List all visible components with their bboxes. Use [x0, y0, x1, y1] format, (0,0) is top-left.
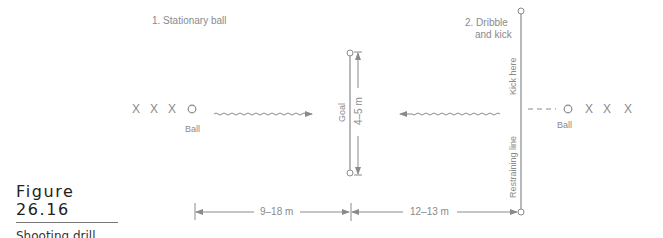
player-x: X [603, 102, 611, 116]
dribble-arrow-left-icon [400, 113, 500, 115]
dist-left-label: 9–18 m [260, 206, 293, 217]
right-ball-icon [564, 105, 572, 113]
player-x: X [132, 102, 140, 116]
goal-label: Goal [337, 103, 347, 122]
goal-width-label: 4–5 m [353, 97, 364, 125]
player-x: X [150, 102, 158, 116]
right-players: X X X [585, 102, 632, 116]
figure-title: Figure 26.16 [16, 183, 118, 219]
dribble-arrow-right-icon [214, 113, 312, 115]
restraining-line-label: Restraining line [508, 136, 518, 198]
drill2-label-line1: 2. Dribble [465, 17, 508, 28]
figure-subtitle: Shooting drill. [16, 229, 118, 238]
kick-here-label: Kick here [508, 57, 518, 95]
figure-caption: Figure 26.16 Shooting drill. [16, 183, 118, 238]
drill1-label: 1. Stationary ball [152, 15, 227, 26]
left-players: X X X [132, 102, 176, 116]
player-x: X [585, 102, 593, 116]
left-ball-label: Ball [185, 124, 200, 134]
restraining-line [518, 8, 524, 215]
dist-right-label: 12–13 m [410, 206, 449, 217]
player-x: X [624, 102, 632, 116]
left-ball-icon [188, 105, 196, 113]
drill2-label-line2: and kick [475, 29, 513, 40]
caption-divider [16, 222, 118, 223]
right-ball-label: Ball [557, 120, 572, 130]
player-x: X [168, 102, 176, 116]
